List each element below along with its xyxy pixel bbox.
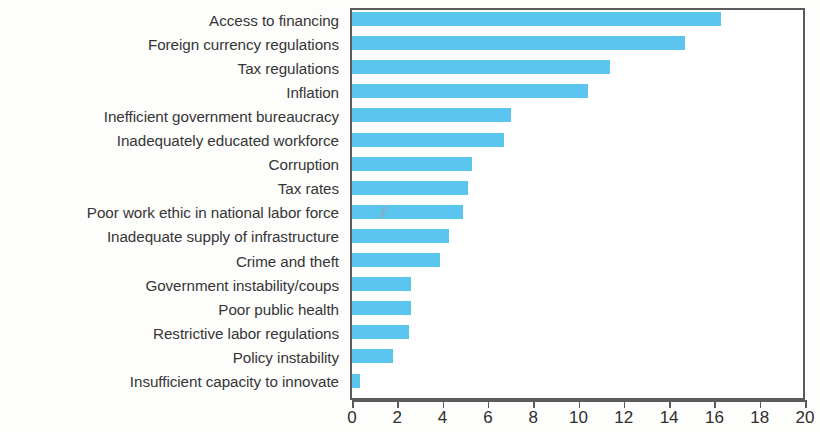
- bar: [352, 12, 721, 26]
- bar: [352, 277, 411, 291]
- bar: [352, 205, 463, 219]
- bar: [352, 374, 360, 388]
- x-axis-tick: [669, 400, 671, 408]
- category-label: Tax regulations: [0, 61, 339, 76]
- x-axis-tick-label: 20: [785, 408, 820, 428]
- category-label: Inadequately educated workforce: [0, 133, 339, 148]
- category-label: Access to financing: [0, 13, 339, 28]
- x-axis-tick-label: 4: [423, 408, 463, 428]
- category-axis-labels: Access to financingForeign currency regu…: [0, 8, 345, 396]
- bar: [352, 84, 588, 98]
- x-axis-tick-label: 14: [649, 408, 689, 428]
- category-label: Inefficient government bureaucracy: [0, 109, 339, 124]
- category-label: Tax rates: [0, 181, 339, 196]
- bar: [352, 157, 472, 171]
- x-axis-tick: [352, 400, 354, 408]
- x-axis-tick: [443, 400, 445, 408]
- category-label: Insufficient capacity to innovate: [0, 374, 339, 389]
- category-label: Foreign currency regulations: [0, 37, 339, 52]
- bar: [352, 181, 468, 195]
- x-axis-tick: [760, 400, 762, 408]
- x-axis-tick: [624, 400, 626, 408]
- x-axis-tick-label: 18: [740, 408, 780, 428]
- x-axis-tick-label: 8: [513, 408, 553, 428]
- bar: [352, 349, 393, 363]
- x-axis-tick: [579, 400, 581, 408]
- category-label: Corruption: [0, 157, 339, 172]
- bar: [352, 60, 610, 74]
- bar: [352, 133, 504, 147]
- category-label: Inadequate supply of infrastructure: [0, 229, 339, 244]
- category-label: Crime and theft: [0, 254, 339, 269]
- category-label: Poor work ethic in national labor force: [0, 205, 339, 220]
- category-label: Government instability/coups: [0, 278, 339, 293]
- category-label: Inflation: [0, 85, 339, 100]
- x-axis-tick: [805, 400, 807, 408]
- bar: [352, 325, 409, 339]
- category-label: Poor public health: [0, 302, 339, 317]
- x-axis-tick: [533, 400, 535, 408]
- x-axis-tick-label: 6: [468, 408, 508, 428]
- bar: [352, 108, 511, 122]
- bar: [352, 301, 411, 315]
- category-label: Restrictive labor regulations: [0, 326, 339, 341]
- bar: [352, 253, 440, 267]
- x-axis-tick-label: 16: [694, 408, 734, 428]
- x-axis-tick-label: 0: [332, 408, 372, 428]
- bar: [352, 36, 685, 50]
- bars-layer: [352, 8, 805, 400]
- x-axis-tick: [397, 400, 399, 408]
- bar: [352, 229, 449, 243]
- x-axis-tick: [488, 400, 490, 408]
- bar-chart: Access to financingForeign currency regu…: [0, 0, 820, 432]
- x-axis-tick-label: 2: [377, 408, 417, 428]
- x-axis-tick-label: 10: [559, 408, 599, 428]
- x-axis-tick-label: 12: [604, 408, 644, 428]
- category-label: Policy instability: [0, 350, 339, 365]
- x-axis-tick: [714, 400, 716, 408]
